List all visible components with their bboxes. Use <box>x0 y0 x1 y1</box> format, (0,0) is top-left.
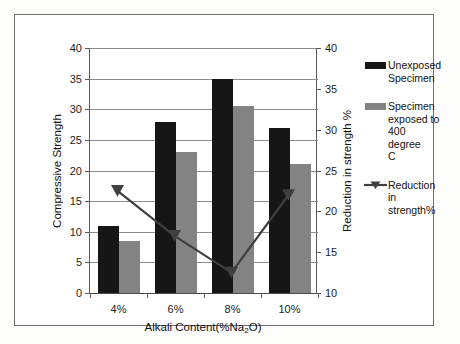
y-tick-label-right-35: 35 <box>325 83 345 95</box>
legend-item-1[interactable]: Specimenexposed to400 degreeC <box>363 100 441 163</box>
bar-exposed-8 <box>233 106 254 293</box>
bar-unexposed-6 <box>155 122 176 294</box>
y-tick-label-left-25: 25 <box>62 134 82 146</box>
y-tick-right-40 <box>316 48 321 49</box>
x-tick-label-4: 4% <box>111 303 127 315</box>
gridline-y-30 <box>90 109 318 110</box>
bar-unexposed-8 <box>212 79 233 293</box>
legend-item-0[interactable]: UnexposedSpecimen <box>363 59 441 84</box>
gridline-y-40 <box>90 48 318 49</box>
y-tick-label-left-0: 0 <box>62 287 82 299</box>
chart-frame: Compressive Strength Reduction in streng… <box>14 14 434 326</box>
y-tick-label-right-25: 25 <box>325 165 345 177</box>
y-tick-label-left-20: 20 <box>62 165 82 177</box>
chart-figure: Compressive Strength Reduction in streng… <box>0 0 460 344</box>
y-tick-label-left-15: 15 <box>62 195 82 207</box>
bar-unexposed-10 <box>269 128 290 293</box>
legend-color-swatch-1 <box>365 103 386 110</box>
x-tick-label-6: 6% <box>168 303 184 315</box>
x-tick-mark-1 <box>147 293 148 298</box>
y-tick-left-30 <box>85 109 90 110</box>
x-axis-title: Alkali Content(%Na2O) <box>89 321 317 333</box>
y-tick-left-20 <box>85 171 90 172</box>
y-tick-right-25 <box>316 171 321 172</box>
y-tick-left-35 <box>85 79 90 80</box>
legend-label-2-line-1: in <box>388 191 441 204</box>
x-tick-mark-3 <box>261 293 262 298</box>
legend-swatch-wrap-2 <box>363 179 388 191</box>
x-tick-label-10: 10% <box>278 303 300 315</box>
y-tick-label-left-5: 5 <box>62 256 82 268</box>
legend-line-triangle-icon <box>363 179 388 191</box>
y-tick-label-right-20: 20 <box>325 205 345 217</box>
legend-label-2-line-2: strength% <box>388 204 441 217</box>
y-tick-label-right-40: 40 <box>325 42 345 54</box>
x-axis-title-prefix: Alkali Content(%Na <box>145 321 245 333</box>
bar-exposed-6 <box>176 152 197 293</box>
y-tick-left-5 <box>85 262 90 263</box>
y-tick-left-40 <box>85 48 90 49</box>
legend-label-1-line-1: exposed to <box>388 113 441 126</box>
x-tick-mark-0 <box>90 293 91 298</box>
y-tick-left-15 <box>85 201 90 202</box>
legend-swatch-wrap-0 <box>363 59 388 71</box>
y-tick-label-right-30: 30 <box>325 124 345 136</box>
x-tick-mark-end <box>318 293 319 298</box>
x-axis-title-suffix: O) <box>249 321 262 333</box>
legend-item-2[interactable]: Reductioninstrength% <box>363 179 441 217</box>
gridline-y-35 <box>90 79 318 80</box>
x-tick-mark-2 <box>204 293 205 298</box>
plot-area: 0510152025303540101520253035404%6%8%10% <box>89 48 317 293</box>
legend-color-swatch-0 <box>365 62 386 69</box>
y-tick-right-35 <box>316 89 321 90</box>
y-tick-right-20 <box>316 211 321 212</box>
bar-unexposed-4 <box>98 226 119 293</box>
y-tick-label-right-10: 10 <box>325 287 345 299</box>
legend-label-2-line-0: Reduction <box>388 179 441 192</box>
legend-label-0-line-0: Unexposed <box>388 59 441 72</box>
legend-label-1-line-3: C <box>388 150 441 163</box>
legend-label-1-line-2: 400 degree <box>388 125 441 150</box>
y-tick-label-left-40: 40 <box>62 42 82 54</box>
legend-label-0: UnexposedSpecimen <box>388 59 441 84</box>
legend-label-1-line-0: Specimen <box>388 100 441 113</box>
y-tick-right-15 <box>316 252 321 253</box>
y-tick-label-left-30: 30 <box>62 103 82 115</box>
bar-exposed-10 <box>290 164 311 293</box>
legend-label-1: Specimenexposed to400 degreeC <box>388 100 441 163</box>
legend-swatch-wrap-1 <box>363 100 388 112</box>
y-tick-label-right-15: 15 <box>325 246 345 258</box>
legend-label-2: Reductioninstrength% <box>388 179 441 217</box>
y-tick-right-30 <box>316 130 321 131</box>
x-tick-label-8: 8% <box>225 303 241 315</box>
y-tick-label-left-10: 10 <box>62 226 82 238</box>
y-tick-label-left-35: 35 <box>62 73 82 85</box>
chart-legend: UnexposedSpecimenSpecimenexposed to400 d… <box>363 59 441 232</box>
legend-label-0-line-1: Specimen <box>388 72 441 85</box>
bar-exposed-4 <box>119 241 140 293</box>
y-tick-left-25 <box>85 140 90 141</box>
y-tick-left-10 <box>85 232 90 233</box>
x-axis-title-subscript: 2 <box>244 326 248 335</box>
